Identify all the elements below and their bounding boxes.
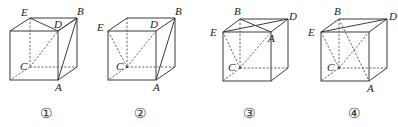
diagram-svg: E D B A C ① E D B A C ② — [0, 0, 398, 127]
cube-4-label-C: C — [327, 61, 335, 73]
cube-1-segment-CD — [30, 31, 58, 67]
cube-3-label-A: A — [267, 32, 275, 44]
cube-3-front-face — [223, 32, 271, 81]
cube-4-caption: ④ — [348, 105, 361, 121]
cube-4-label-A: A — [366, 82, 374, 94]
cube-2-label-A: A — [152, 81, 160, 93]
cube-1-caption: ① — [40, 105, 53, 121]
cube-2-segment-BA — [156, 18, 175, 80]
cube-2-edge — [108, 18, 127, 31]
cube-figure-4: B D E A C ④ — [307, 5, 397, 121]
cube-3-label-C: C — [228, 61, 236, 73]
cube-2-edge — [156, 67, 175, 80]
cube-4-point-C — [338, 67, 340, 69]
cube-4-label-B: B — [334, 5, 341, 17]
cube-diagram-figure: E D B A C ① E D B A C ② — [0, 0, 398, 127]
cube-figure-3: B D E A C ③ — [209, 5, 297, 121]
cube-3-point-C — [239, 67, 241, 69]
cube-2-label-C: C — [116, 60, 124, 72]
cube-3-label-E: E — [209, 26, 217, 38]
cube-1-edge — [58, 67, 77, 80]
cube-1-front-face — [10, 31, 58, 80]
cube-figure-1: E D B A C ① — [10, 5, 84, 121]
cube-4-label-D: D — [388, 10, 397, 22]
cube-2-label-D: D — [149, 18, 158, 30]
cube-3-label-B: B — [234, 5, 241, 17]
cube-3-label-D: D — [288, 10, 297, 22]
cube-4-segment-ED — [321, 19, 387, 32]
cube-4-label-E: E — [307, 26, 315, 38]
cube-1-label-D: D — [53, 18, 62, 30]
cube-2-edge — [156, 18, 175, 31]
cube-3-caption: ③ — [243, 105, 256, 121]
cube-1-label-C: C — [20, 60, 28, 72]
cube-1-label-B: B — [77, 5, 84, 17]
cube-1-label-A: A — [54, 81, 62, 93]
cube-2-caption: ② — [134, 105, 147, 121]
cube-2-point-C — [126, 66, 128, 68]
cube-4-front-face — [321, 32, 369, 81]
cube-2-segment-CD — [127, 31, 156, 67]
cube-3-segment-CA — [240, 32, 271, 68]
cube-2-label-E: E — [96, 21, 104, 33]
cube-4-segment-BA — [339, 19, 369, 81]
cube-2-label-B: B — [175, 5, 182, 17]
cube-1-label-E: E — [20, 6, 28, 18]
cube-4-edge — [369, 68, 387, 81]
cube-3-segment-BA — [240, 19, 271, 32]
cube-figure-2: E D B A C ② — [96, 5, 182, 121]
cube-2-front-face — [108, 31, 156, 80]
cube-1-edge — [10, 18, 30, 31]
cube-3-edge — [271, 68, 288, 81]
